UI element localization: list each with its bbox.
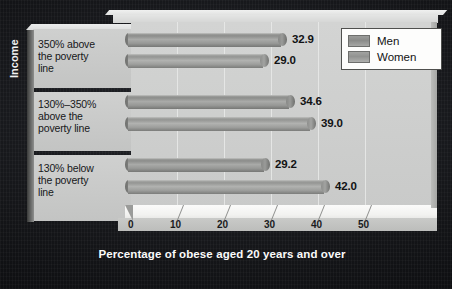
value-label-men-2: 34.6 (300, 95, 322, 107)
category-label-3-line2: the poverty (38, 174, 130, 186)
bar-women-1 (128, 54, 266, 67)
bar-end-cap (286, 95, 295, 108)
bar-women-3 (128, 180, 327, 193)
bar-men-3 (128, 158, 267, 171)
axis-floor-front-face: 0 10 20 30 40 50 (118, 218, 437, 231)
value-label-men-1: 32.9 (292, 33, 314, 45)
category-label-2-line3: poverty line (38, 122, 130, 134)
bar-body (128, 158, 264, 172)
category-label-1-line2: the poverty (38, 50, 130, 62)
value-label-women-2: 39.0 (321, 117, 343, 129)
bar-body (128, 54, 263, 68)
xtick-label-50: 50 (358, 219, 369, 230)
x-axis-title: Percentage of obese aged 20 years and ov… (0, 248, 444, 260)
legend-item-men[interactable]: Men (348, 33, 441, 49)
bar-body (128, 95, 289, 109)
shelf-left-side-face (27, 30, 34, 222)
bar-women-2 (128, 117, 313, 130)
plot-top-riser-bevel (105, 10, 447, 15)
value-label-men-3: 29.2 (275, 158, 297, 170)
bar-end-cap (321, 180, 330, 193)
category-label-1-line1: 350% above (38, 38, 130, 50)
legend-label-men: Men (377, 35, 399, 47)
legend-swatch-women (348, 51, 370, 63)
category-label-1: 350% above the poverty line (38, 38, 130, 75)
bar-body (128, 33, 281, 47)
xtick-label-40: 40 (311, 219, 322, 230)
category-label-3-line1: 130% below (38, 162, 130, 174)
bar-end-cap (260, 54, 269, 67)
xtick-label-30: 30 (264, 219, 275, 230)
income-obesity-bar-chart: 350% above the poverty line 130%–350% ab… (0, 0, 452, 289)
xtick-label-10: 10 (170, 219, 181, 230)
category-label-2: 130%–350% above the poverty line (38, 98, 130, 135)
bar-end-cap (261, 158, 270, 171)
category-label-3-line3: line (38, 186, 130, 198)
legend: Men Women (341, 28, 442, 70)
bar-body (128, 117, 310, 131)
y-axis-title: Income (8, 39, 20, 78)
bar-end-cap (278, 33, 287, 46)
category-label-2-line1: 130%–350% (38, 98, 130, 110)
bar-end-cap (307, 117, 316, 130)
category-label-2-line2: above the (38, 110, 130, 122)
xtick-label-20: 20 (217, 219, 228, 230)
legend-swatch-men (348, 35, 370, 47)
value-label-women-3: 42.0 (335, 180, 357, 192)
category-label-1-line3: line (38, 62, 130, 74)
bar-men-2 (128, 95, 292, 108)
xtick-label-0: 0 (128, 219, 134, 230)
bar-men-1 (128, 33, 284, 46)
bar-body (128, 180, 324, 194)
legend-label-women: Women (377, 51, 416, 63)
legend-item-women[interactable]: Women (348, 49, 441, 65)
category-label-3: 130% below the poverty line (38, 162, 130, 199)
value-label-women-1: 29.0 (274, 54, 296, 66)
